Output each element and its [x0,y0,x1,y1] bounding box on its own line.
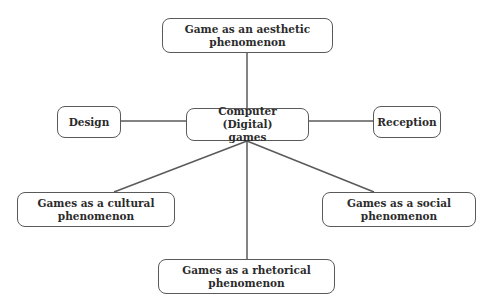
node-cultural: Games as a cultural phenomenon [17,192,175,227]
node-aesthetic-label-2: phenomenon [185,36,310,49]
node-design: Design [57,106,121,138]
node-cultural-label-1: Games as a cultural [38,197,155,210]
node-center: Computer (Digital) games [186,108,309,141]
node-center-label-2: games [193,131,302,144]
node-reception-label: Reception [377,116,436,129]
node-rhetorical-label-2: phenomenon [182,277,310,290]
node-design-label: Design [69,116,110,129]
node-cultural-label-2: phenomenon [38,210,155,223]
node-social: Games as a social phenomenon [322,192,476,227]
concept-diagram: Game as an aesthetic phenomenon Design C… [0,0,492,307]
edge-center-social [247,141,374,192]
node-rhetorical: Games as a rhetorical phenomenon [158,259,335,294]
node-social-label-1: Games as a social [347,197,451,210]
node-aesthetic: Game as an aesthetic phenomenon [162,18,333,53]
node-reception: Reception [373,106,441,138]
node-aesthetic-label-1: Game as an aesthetic [185,23,310,36]
node-rhetorical-label-1: Games as a rhetorical [182,264,310,277]
edge-center-cultural [114,141,247,192]
node-social-label-2: phenomenon [347,210,451,223]
node-center-label-1: Computer (Digital) [193,105,302,131]
